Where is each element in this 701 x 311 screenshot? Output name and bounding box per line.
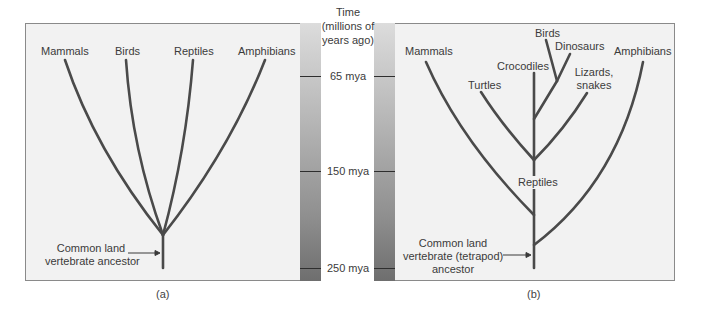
label-b-lizards-line1: Lizards, — [572, 66, 616, 79]
label-b-ancestor-line2: vertebrate (tetrapod) — [403, 250, 503, 263]
label-b-ancestor-line1: Common land — [403, 237, 503, 250]
branch-b-dinosaurs — [557, 54, 570, 81]
branch-a-amphibians — [163, 60, 265, 235]
label-b-crocodiles: Crocodiles — [497, 60, 549, 73]
branch-b-lizards — [534, 93, 587, 160]
label-b-turtles: Turtles — [468, 79, 501, 92]
label-b-lizards-snakes: Lizards, snakes — [572, 66, 616, 92]
label-b-mammals: Mammals — [405, 45, 453, 58]
label-a-ancestor-line2: vertebrate ancestor — [45, 255, 137, 268]
branch-a-mammals — [65, 60, 163, 235]
branch-a-reptiles — [163, 60, 193, 235]
caption-a: (a) — [156, 288, 169, 300]
label-b-lizards-line2: snakes — [572, 79, 616, 92]
label-a-mammals: Mammals — [41, 45, 89, 58]
branch-b-turtles — [481, 92, 534, 160]
label-b-ancestor-line3: ancestor — [403, 263, 503, 276]
label-a-ancestor-line1: Common land — [45, 242, 137, 255]
label-b-ancestor: Common land vertebrate (tetrapod) ancest… — [403, 237, 503, 276]
label-b-amphibians: Amphibians — [614, 45, 671, 58]
caption-b: (b) — [527, 288, 540, 300]
label-a-birds: Birds — [115, 45, 140, 58]
label-a-reptiles: Reptiles — [174, 45, 214, 58]
label-a-amphibians: Amphibians — [238, 45, 295, 58]
label-b-reptiles: Reptiles — [517, 176, 559, 189]
label-a-ancestor: Common land vertebrate ancestor — [45, 242, 137, 268]
label-b-dinosaurs: Dinosaurs — [555, 40, 605, 53]
branch-b-archosaur — [534, 81, 557, 119]
label-b-birds: Birds — [535, 27, 560, 40]
